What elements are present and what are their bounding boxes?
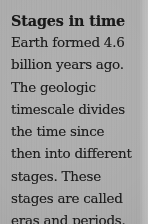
body-line: Earth formed 4.6	[11, 31, 145, 53]
body-line: stages. These	[11, 165, 145, 187]
body-line: the time since	[11, 120, 145, 142]
body-line: eras and periods.	[11, 209, 145, 224]
body-paragraph: Earth formed 4.6 billion years ago. The …	[11, 31, 145, 224]
body-line: then into different	[11, 142, 145, 164]
body-line: billion years ago.	[11, 53, 145, 75]
page-title: Stages in time	[11, 11, 145, 30]
body-line: timescale divides	[11, 98, 145, 120]
document-page: Stages in time Earth formed 4.6 billion …	[0, 0, 148, 224]
body-line: The geologic	[11, 76, 145, 98]
body-line: stages are called	[11, 187, 145, 209]
text-block: Stages in time Earth formed 4.6 billion …	[11, 11, 145, 224]
